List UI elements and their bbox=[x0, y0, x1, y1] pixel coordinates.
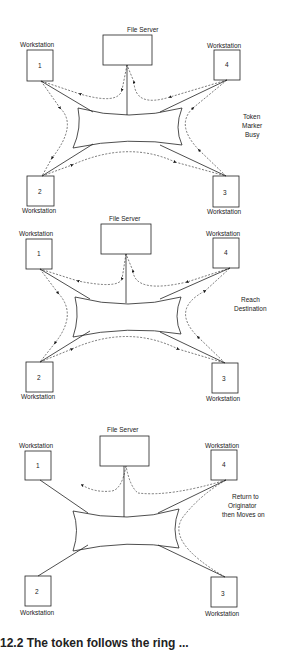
file-server-box bbox=[103, 35, 152, 65]
ring-hub bbox=[73, 297, 181, 337]
workstation-1-number: 1 bbox=[37, 250, 41, 257]
workstation-2-number: 2 bbox=[37, 374, 41, 381]
workstation-2-label: Workstation bbox=[22, 207, 57, 214]
file-server-label: File Server bbox=[109, 215, 141, 222]
workstation-2-number: 2 bbox=[35, 588, 39, 595]
ring-hub bbox=[73, 509, 179, 551]
workstation-4-number: 4 bbox=[225, 61, 229, 68]
workstation-2-number: 2 bbox=[38, 188, 42, 195]
panel-token-marker-busy: File Server Workstation 1 Workstation 4 … bbox=[20, 26, 263, 215]
workstation-1-label: Workstation bbox=[20, 41, 55, 48]
panel-return-to-originator: File Server Workstation 1 Workstation 4 … bbox=[19, 426, 265, 617]
workstation-3-number: 3 bbox=[221, 590, 225, 597]
state-label-line-1: Reach bbox=[241, 296, 260, 303]
file-server-label: File Server bbox=[127, 26, 159, 33]
file-server-box bbox=[100, 436, 149, 466]
workstation-1-label: Workstation bbox=[19, 230, 54, 237]
state-label-line-3: then Moves on bbox=[222, 511, 265, 518]
figure-caption: 12.2 The token follows the ring ... bbox=[0, 636, 292, 650]
panel-reach-destination: File Server Workstation 1 Workstation 4 … bbox=[19, 215, 267, 402]
workstation-1-label: Workstation bbox=[19, 442, 54, 449]
state-label-line-2: Destination bbox=[234, 305, 267, 312]
state-label-line-1: Token bbox=[243, 113, 261, 120]
state-label-line-2: Originator bbox=[228, 502, 257, 510]
file-server-label: File Server bbox=[107, 426, 139, 433]
workstation-2-label: Workstation bbox=[21, 393, 56, 400]
workstation-3-label: Workstation bbox=[205, 610, 240, 617]
workstation-4-number: 4 bbox=[222, 461, 226, 468]
workstation-2-label: Workstation bbox=[20, 609, 55, 616]
workstation-1-number: 1 bbox=[38, 62, 42, 69]
workstation-3-label: Workstation bbox=[206, 395, 241, 402]
workstation-1-number: 1 bbox=[36, 462, 40, 469]
ring-hub bbox=[73, 108, 182, 148]
state-label-line-2: Marker bbox=[242, 122, 263, 129]
workstation-3-number: 3 bbox=[222, 375, 226, 382]
state-label-line-1: Return to bbox=[232, 493, 259, 500]
file-server-box bbox=[101, 224, 151, 254]
state-label-line-3: Busy bbox=[245, 131, 260, 139]
workstation-3-number: 3 bbox=[223, 189, 227, 196]
workstation-4-label: Workstation bbox=[206, 230, 241, 237]
workstation-4-label: Workstation bbox=[205, 442, 240, 449]
workstation-4-label: Workstation bbox=[207, 42, 242, 49]
workstation-3-label: Workstation bbox=[207, 208, 242, 215]
workstation-4-number: 4 bbox=[224, 249, 228, 256]
